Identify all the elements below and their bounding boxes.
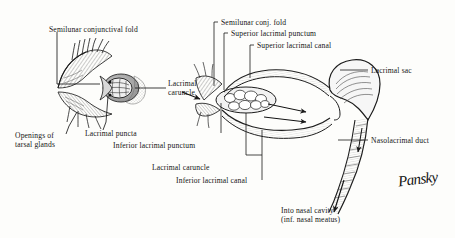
label-superior-lacrimal-canal: Superior lacrimal canal bbox=[257, 41, 331, 50]
label-lacrimal-puncta: Lacrimal puncta bbox=[85, 129, 137, 138]
label-superior-lacrimal-punctum: Superior lacrimal punctum bbox=[231, 29, 316, 38]
label-inferior-lacrimal-punctum: Inferior lacrimal punctum bbox=[113, 141, 195, 150]
lacrimal-apparatus-drawing bbox=[0, 0, 455, 238]
label-inferior-lacrimal-canal: Inferior lacrimal canal bbox=[176, 176, 247, 185]
label-into-nasal-cavity-line2: (inf. nasal meatus) bbox=[281, 215, 340, 224]
label-nasolacrimal-duct: Nasolacrimal duct bbox=[371, 136, 429, 145]
label-openings-of-tarsal-glands: Openings of tarsal glands bbox=[15, 131, 55, 149]
label-lacrimal-caruncle-left: Lacrimal caruncle bbox=[168, 79, 197, 97]
label-lacrimal-sac: Lacrimal sac bbox=[371, 66, 412, 75]
lacrimal-apparatus-main-drawing bbox=[182, 60, 380, 214]
anatomical-figure: Semilunar conjunctival fold Lacrimal car… bbox=[0, 0, 455, 238]
left-eye-detail-drawing bbox=[58, 38, 146, 129]
label-semilunar-conjunctival-fold: Semilunar conjunctival fold bbox=[49, 25, 138, 34]
label-into-nasal-cavity-line1: Into nasal cavity bbox=[281, 206, 334, 215]
label-lacrimal-caruncle-right: Lacrimal caruncle bbox=[152, 163, 210, 172]
label-semilunar-conj-fold: Semilunar conj. fold bbox=[221, 18, 286, 27]
